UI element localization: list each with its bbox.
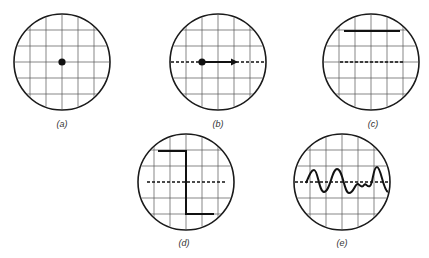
beam-dot bbox=[198, 58, 205, 65]
panel-label-c: (c) bbox=[368, 119, 379, 129]
panel-label-b: (b) bbox=[213, 119, 224, 129]
beam-dot bbox=[58, 58, 65, 65]
panel-b: (b) bbox=[150, 0, 290, 130]
oscilloscope-figure: (a) (b) (c) (d) bbox=[0, 0, 429, 258]
panel-label-d: (d) bbox=[179, 238, 190, 248]
panel-label-e: (e) bbox=[337, 238, 348, 248]
panel-e: (e) bbox=[280, 120, 429, 250]
panel-d: (d) bbox=[120, 120, 250, 250]
panel-c: (c) bbox=[300, 0, 429, 130]
panel-a: (a) bbox=[0, 0, 130, 130]
panel-label-a: (a) bbox=[57, 119, 68, 129]
